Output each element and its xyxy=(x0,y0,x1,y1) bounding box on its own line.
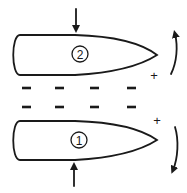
body-2: 2 xyxy=(13,35,157,75)
diagram-canvas: 2 + 1 + xyxy=(0,0,187,193)
bottom-tip-charge: + xyxy=(153,113,161,128)
body-1: 1 xyxy=(13,121,157,160)
body-1-outline xyxy=(13,121,157,160)
body-2-outline xyxy=(13,35,157,75)
body-1-label: 1 xyxy=(76,134,83,148)
rotation-arrow-down-icon xyxy=(173,127,177,170)
rotation-arrow-up-icon xyxy=(171,34,177,74)
top-tip-charge: + xyxy=(150,68,158,83)
body-2-label: 2 xyxy=(77,48,84,62)
